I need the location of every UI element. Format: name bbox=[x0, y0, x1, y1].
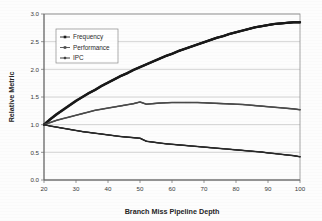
series-performance bbox=[43, 101, 300, 125]
y-tick-label: 3.0 bbox=[30, 10, 39, 17]
data-marker bbox=[299, 21, 301, 23]
y-tick-label: 1.5 bbox=[30, 93, 39, 100]
legend-label: Frequency bbox=[73, 33, 104, 41]
y-tick-label: 0.5 bbox=[30, 149, 39, 156]
chart-container: 2030405060708090100 0.00.51.01.52.02.53.… bbox=[0, 0, 322, 221]
y-axis-title: Relative Metric bbox=[7, 72, 16, 123]
x-axis-title: Branch Miss Pipeline Depth bbox=[125, 207, 220, 216]
x-tick-label: 40 bbox=[105, 185, 112, 192]
x-tick-label: 30 bbox=[73, 185, 80, 192]
line-chart: 2030405060708090100 0.00.51.01.52.02.53.… bbox=[0, 0, 322, 221]
data-marker bbox=[300, 156, 301, 157]
x-tick-label: 70 bbox=[201, 185, 208, 192]
legend-label: Performance bbox=[73, 44, 110, 51]
x-tick-label: 20 bbox=[41, 185, 48, 192]
x-tick-label: 50 bbox=[137, 185, 144, 192]
legend-label: IPC bbox=[73, 54, 84, 61]
legend-marker-square-icon bbox=[64, 36, 67, 39]
x-tick-label: 80 bbox=[233, 185, 240, 192]
y-axis-ticks: 0.00.51.01.52.02.53.0 bbox=[30, 10, 44, 183]
x-tick-label: 90 bbox=[265, 185, 272, 192]
data-marker bbox=[299, 109, 300, 110]
legend-marker-plus-icon bbox=[64, 57, 65, 60]
x-tick-label: 60 bbox=[169, 185, 176, 192]
legend-marker-square-icon bbox=[64, 46, 67, 49]
y-tick-label: 2.5 bbox=[30, 38, 39, 45]
y-tick-label: 2.0 bbox=[30, 66, 39, 73]
x-tick-label: 100 bbox=[295, 185, 306, 192]
y-tick-label: 0.0 bbox=[30, 176, 39, 183]
chart-legend[interactable]: FrequencyPerformanceIPC bbox=[56, 29, 118, 63]
y-tick-label: 1.0 bbox=[30, 121, 39, 128]
x-axis-ticks: 2030405060708090100 bbox=[41, 180, 306, 192]
